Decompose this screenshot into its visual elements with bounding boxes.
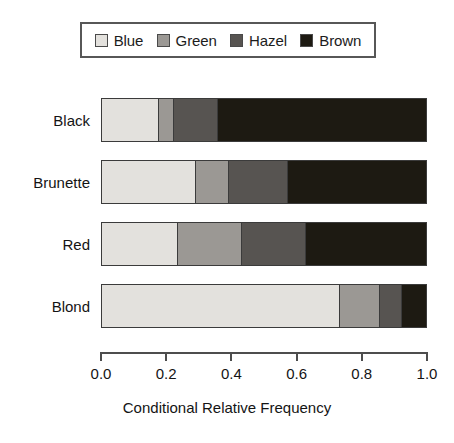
x-tick-mark: [361, 352, 363, 361]
bar-row: [101, 222, 427, 266]
bar-segment-brown: [217, 99, 426, 141]
bar-segment-brown: [401, 285, 426, 327]
bar-segment-hazel: [228, 161, 287, 203]
category-label-black: Black: [0, 112, 90, 129]
bar-segment-green: [158, 99, 173, 141]
plot-area: [101, 96, 427, 341]
x-tick-label: 0.6: [274, 365, 320, 382]
bar-row: [101, 98, 427, 142]
bar-segment-green: [339, 285, 380, 327]
legend-swatch-green-icon: [157, 34, 170, 47]
legend-label: Hazel: [249, 32, 287, 49]
x-tick-mark: [426, 352, 428, 361]
bar-segment-blue: [102, 99, 158, 141]
legend-label: Green: [176, 32, 217, 49]
chart-legend: BlueGreenHazelBrown: [80, 22, 376, 58]
x-tick-label: 0.2: [143, 365, 189, 382]
bar-row: [101, 284, 427, 328]
bar-segment-blue: [102, 285, 339, 327]
legend-label: Blue: [114, 32, 144, 49]
category-label-brunette: Brunette: [0, 174, 90, 191]
bar-row: [101, 160, 427, 204]
bar-segment-hazel: [173, 99, 218, 141]
legend-item-green: Green: [157, 32, 217, 49]
bar-segment-hazel: [241, 223, 305, 265]
legend-swatch-brown-icon: [300, 34, 313, 47]
x-tick-mark: [100, 352, 102, 361]
legend-label: Brown: [319, 32, 361, 49]
bar-segment-blue: [102, 161, 195, 203]
bar-segment-blue: [102, 223, 177, 265]
bar-segment-brown: [305, 223, 426, 265]
stacked-bar-chart: BlueGreenHazelBrown BlackBrunetteRedBlon…: [0, 0, 454, 443]
category-label-blond: Blond: [0, 298, 90, 315]
legend-item-brown: Brown: [300, 32, 361, 49]
x-tick-label: 0.8: [339, 365, 385, 382]
legend-swatch-blue-icon: [95, 34, 108, 47]
x-tick-mark: [296, 352, 298, 361]
x-tick-mark: [230, 352, 232, 361]
bar-segment-brown: [287, 161, 426, 203]
x-tick-label: 0.0: [78, 365, 124, 382]
x-tick-mark: [165, 352, 167, 361]
category-label-red: Red: [0, 236, 90, 253]
bar-segment-green: [177, 223, 241, 265]
x-tick-label: 0.4: [208, 365, 254, 382]
x-axis-title: Conditional Relative Frequency: [0, 399, 454, 416]
legend-swatch-hazel-icon: [230, 34, 243, 47]
x-axis-line: [101, 352, 427, 354]
legend-item-blue: Blue: [95, 32, 144, 49]
x-tick-label: 1.0: [404, 365, 450, 382]
legend-item-hazel: Hazel: [230, 32, 287, 49]
bar-segment-hazel: [379, 285, 401, 327]
bar-segment-green: [195, 161, 228, 203]
